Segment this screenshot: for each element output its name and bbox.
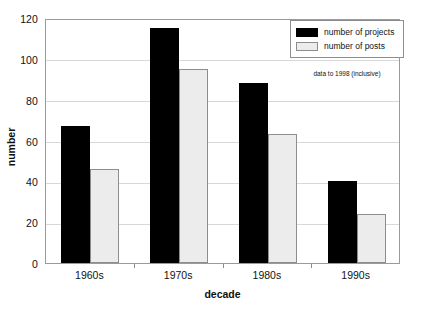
bar-1970s-projects bbox=[150, 28, 179, 263]
black-square-swatch bbox=[296, 28, 318, 37]
gridline bbox=[46, 142, 399, 143]
legend-label: number of projects bbox=[324, 27, 394, 37]
x-tick-mark bbox=[223, 264, 224, 268]
x-tick-label: 1980s bbox=[253, 269, 282, 281]
bar-1960s-posts bbox=[90, 169, 119, 263]
legend-label: number of posts bbox=[324, 41, 385, 51]
legend-entry: number of projects bbox=[296, 25, 398, 39]
bar-1990s-posts bbox=[357, 214, 386, 263]
x-tick-label: 1990s bbox=[341, 269, 370, 281]
chart-legend: number of projectsnumber of posts bbox=[290, 20, 404, 58]
bar-1980s-posts bbox=[268, 134, 297, 263]
x-tick-mark bbox=[311, 264, 312, 268]
y-tick-label: 40 bbox=[26, 176, 38, 188]
light-gray-square-swatch bbox=[296, 42, 318, 51]
bar-1990s-projects bbox=[328, 181, 357, 263]
y-tick-label: 20 bbox=[26, 217, 38, 229]
x-axis: 1960s1970s1980s1990s bbox=[45, 264, 400, 286]
y-tick-label: 100 bbox=[20, 54, 38, 66]
legend-entry: number of posts bbox=[296, 39, 398, 53]
bar-1960s-projects bbox=[61, 126, 90, 263]
bar-1980s-projects bbox=[239, 83, 268, 263]
x-axis-title: decade bbox=[45, 288, 400, 300]
bar-1970s-posts bbox=[179, 69, 208, 263]
bar-chart-figure: 020406080100120 number 1960s1970s1980s19… bbox=[0, 0, 422, 315]
y-tick-label: 120 bbox=[20, 13, 38, 25]
y-tick-label: 0 bbox=[32, 258, 38, 270]
gridline bbox=[46, 101, 399, 102]
y-axis-title: number bbox=[5, 117, 17, 177]
gridline bbox=[46, 60, 399, 61]
x-tick-label: 1970s bbox=[164, 269, 193, 281]
y-tick-label: 80 bbox=[26, 95, 38, 107]
chart-annotation: data to 1998 (inclusive) bbox=[290, 70, 404, 77]
x-tick-label: 1960s bbox=[75, 269, 104, 281]
x-tick-mark bbox=[134, 264, 135, 268]
y-tick-label: 60 bbox=[26, 136, 38, 148]
